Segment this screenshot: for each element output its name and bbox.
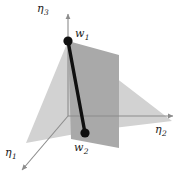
point-label-w2-main: w: [74, 141, 83, 154]
geometry-figure: η3 η2 η1 w1 w2: [0, 0, 182, 175]
point-w2: [80, 128, 89, 137]
axis-label-eta3-sub: 3: [44, 8, 49, 17]
axis-label-eta3: η3: [37, 3, 48, 14]
point-label-w2-sub: 2: [84, 147, 89, 156]
point-label-w2: w2: [74, 142, 88, 153]
point-label-w1-sub: 1: [85, 33, 90, 42]
axis-label-eta2-main: η: [155, 123, 162, 136]
axis-label-eta1-main: η: [5, 146, 12, 159]
axis-label-eta1-sub: 1: [12, 152, 17, 161]
dark-plane: [68, 41, 119, 148]
point-label-w1: w1: [75, 28, 89, 39]
point-w1: [63, 36, 72, 45]
figure-canvas: [0, 0, 182, 175]
axis-label-eta1: η1: [5, 147, 16, 158]
axis-label-eta3-main: η: [37, 2, 44, 15]
axis-label-eta2: η2: [155, 124, 166, 135]
axis-label-eta2-sub: 2: [162, 129, 167, 138]
point-label-w1-main: w: [75, 27, 84, 40]
